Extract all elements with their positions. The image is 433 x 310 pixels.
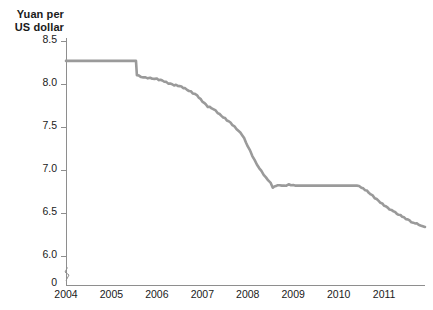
x-tick-label-2004: 2004 [43,288,89,300]
chart-plot-area [0,0,433,310]
x-tick-label-2011: 2011 [361,288,407,300]
y-tick-label: 7.0 [0,163,57,174]
x-tick-label-2008: 2008 [225,288,271,300]
y-tick-mark [61,256,66,257]
x-tick-label-2005: 2005 [88,288,134,300]
y-tick-mark [61,170,66,171]
y-tick-label: 6.5 [0,206,57,217]
axis-break-icon [63,267,71,281]
x-tick-label-2009: 2009 [270,288,316,300]
exchange-rate-chart: Yuan per US dollar 8.58.07.57.06.56.0 20… [0,0,433,310]
x-tick-label-2010: 2010 [316,288,362,300]
y-tick-mark [61,127,66,128]
y-axis-title: Yuan per US dollar [0,8,64,34]
x-axis-line [66,285,425,286]
y-tick-mark [61,84,66,85]
y-axis-title-line-1: Yuan per [0,8,64,21]
y-tick-label: 8.0 [0,77,57,88]
x-tick-label-2007: 2007 [179,288,225,300]
y-tick-label: 7.5 [0,120,57,131]
y-axis-line [66,38,67,286]
y-tick-label: 6.0 [0,249,57,260]
y-axis-zero-label: 0 [0,277,57,288]
x-tick-label-2006: 2006 [134,288,180,300]
y-tick-mark [61,213,66,214]
data-series-line [66,61,425,227]
y-tick-label: 8.5 [0,34,57,45]
y-tick-mark [61,41,66,42]
